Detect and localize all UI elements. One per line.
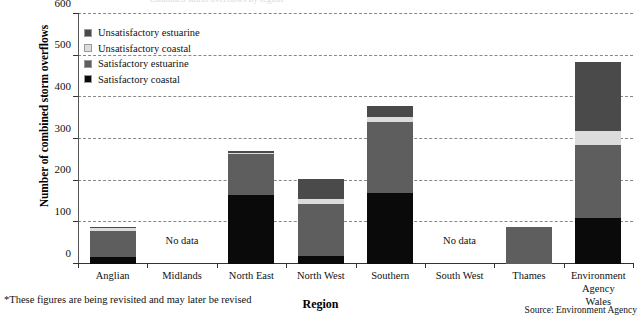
legend-swatch-sat-coastal — [84, 75, 92, 83]
y-tick-label: 100 — [55, 205, 72, 217]
bar-segment — [90, 227, 136, 230]
bar-southern — [367, 106, 413, 264]
y-tick-label: 500 — [55, 38, 72, 50]
chart-figure: combined storm overflows by region Numbe… — [0, 0, 641, 321]
x-tick-mark — [78, 263, 79, 268]
legend-label: Satisfactory estuarine — [98, 58, 189, 69]
bar-segment — [575, 145, 621, 218]
bar-segment — [228, 154, 274, 195]
bar-segment — [298, 179, 344, 200]
footnote-text: *These figures are being revisited and m… — [4, 294, 252, 305]
gridline — [78, 180, 633, 181]
x-axis-label: North West — [297, 269, 345, 282]
x-axis-label: South West — [436, 269, 484, 282]
legend-label: Unsatisfactory coastal — [98, 43, 191, 54]
legend-swatch-unsat-coastal — [84, 44, 92, 52]
bar-segment — [575, 131, 621, 146]
x-tick-mark — [217, 263, 218, 268]
gridline — [78, 221, 633, 222]
x-tick-mark — [564, 263, 565, 268]
bar-segment — [298, 199, 344, 203]
legend-item: Satisfactory coastal — [84, 74, 200, 85]
bar-segment — [367, 193, 413, 264]
bar-segment — [228, 153, 274, 155]
y-tick-label: 200 — [55, 163, 72, 175]
y-axis-line — [78, 14, 79, 264]
bar-segment — [575, 62, 621, 131]
bar-segment — [367, 106, 413, 118]
x-tick-mark — [494, 263, 495, 268]
y-tick-label: 400 — [55, 80, 72, 92]
x-axis-label: Anglian — [96, 269, 130, 282]
y-tick-label: 0 — [66, 247, 72, 259]
x-axis-label: Thames — [512, 269, 545, 282]
x-axis-label: Midlands — [162, 269, 202, 282]
legend-swatch-sat-estuarine — [84, 60, 92, 68]
gridline — [78, 96, 633, 97]
y-tick-label: 300 — [55, 122, 72, 134]
x-tick-mark — [286, 263, 287, 268]
no-data-label: No data — [166, 235, 199, 246]
bar-segment — [90, 257, 136, 265]
legend-item: Satisfactory estuarine — [84, 58, 200, 69]
legend: Unsatisfactory estuarineUnsatisfactory c… — [84, 27, 200, 85]
bar-segment — [228, 151, 274, 153]
cutoff-title-strip: combined storm overflows by region — [0, 0, 641, 9]
bar-segment — [575, 218, 621, 264]
y-axis-title: Number of combined storm overflows — [38, 0, 50, 236]
bar-north-east — [228, 151, 274, 264]
bar-segment — [228, 195, 274, 264]
bar-environment-agency-wales — [575, 62, 621, 264]
bar-north-west — [298, 179, 344, 264]
x-tick-mark — [356, 263, 357, 268]
gridline — [78, 13, 633, 14]
y-tick-label: 600 — [55, 0, 72, 9]
legend-label: Unsatisfactory estuarine — [98, 27, 200, 38]
bar-segment — [298, 204, 344, 256]
bar-segment — [367, 117, 413, 121]
bar-segment — [298, 256, 344, 264]
legend-item: Unsatisfactory estuarine — [84, 27, 200, 38]
x-axis-label: North East — [229, 269, 274, 282]
x-tick-mark — [633, 263, 634, 268]
legend-item: Unsatisfactory coastal — [84, 43, 200, 54]
legend-label: Satisfactory coastal — [98, 74, 180, 85]
bar-segment — [506, 227, 552, 265]
bar-segment — [367, 122, 413, 194]
source-text: Source: Environment Agency — [525, 305, 637, 315]
bar-thames — [506, 227, 552, 265]
x-tick-mark — [147, 263, 148, 268]
cutoff-title-text: combined storm overflows by region — [150, 0, 283, 4]
bar-anglian — [90, 227, 136, 265]
x-axis-label: Southern — [371, 269, 409, 282]
legend-swatch-unsat-estuarine — [84, 29, 92, 37]
bar-segment — [90, 227, 136, 228]
bar-segment — [90, 231, 136, 257]
x-tick-mark — [425, 263, 426, 268]
no-data-label: No data — [443, 235, 476, 246]
gridline — [78, 138, 633, 139]
